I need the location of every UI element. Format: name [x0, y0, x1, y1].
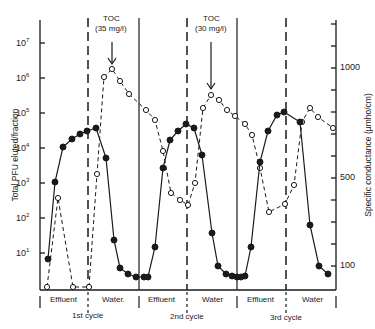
data-point-filled [93, 125, 99, 131]
toc-annotation-2-value: (30 mg/l) [195, 24, 227, 33]
data-point-filled [52, 179, 58, 185]
tick-label-100: 100 [340, 260, 355, 270]
cycle-label-3: 3rd cycle [270, 313, 302, 322]
phase-label-effluent-3: Effluent [247, 295, 274, 304]
data-point-open [249, 132, 254, 137]
data-point-filled [125, 271, 131, 277]
data-point-open [291, 182, 296, 187]
data-point-open [168, 190, 173, 195]
data-point-open [216, 97, 221, 102]
tick-label-1e6: 106 [16, 72, 29, 83]
data-point-filled [248, 244, 254, 250]
data-point-filled [191, 125, 197, 131]
tick-label-1e2: 102 [16, 212, 29, 223]
data-point-open [94, 171, 99, 176]
data-point-open [200, 105, 205, 110]
data-point-open [44, 284, 49, 289]
data-point-open [70, 284, 75, 289]
data-point-filled [325, 271, 331, 277]
cycle-label-1: 1st cycle [72, 311, 103, 320]
data-point-open [192, 180, 197, 185]
data-point-open [185, 202, 190, 207]
tick-label-1e4: 104 [16, 142, 29, 153]
data-point-open [152, 117, 157, 122]
data-point-filled [307, 222, 313, 228]
data-point-open [86, 284, 91, 289]
data-point-filled [111, 237, 117, 243]
data-point-filled [45, 256, 51, 262]
tick-label-1e7: 107 [16, 37, 29, 48]
data-point-open [242, 121, 247, 126]
tick-label-1e1: 101 [16, 247, 29, 258]
data-point-open [160, 148, 165, 153]
data-point-open [177, 197, 182, 202]
tick-label-500: 500 [340, 172, 355, 182]
data-point-open [307, 105, 312, 110]
chart [0, 0, 375, 329]
data-point-open [109, 66, 114, 71]
phase-separators [40, 18, 336, 313]
data-point-filled [274, 112, 280, 118]
data-point-filled [84, 128, 90, 134]
data-point-open [315, 114, 320, 119]
data-point-filled [69, 136, 75, 142]
phase-label-water-3: Water [302, 295, 323, 304]
data-point-filled [183, 121, 189, 127]
phase-label-effluent-2: Effluent [148, 295, 175, 304]
phase-label-water-1: Water. [102, 295, 125, 304]
toc-annotation-2-title: TOC [203, 14, 220, 23]
data-point-filled [223, 271, 229, 277]
tick-label-1e3: 103 [16, 177, 29, 188]
data-point-open [101, 74, 106, 79]
data-point-filled [199, 152, 205, 158]
data-point-filled [265, 128, 271, 134]
data-point-filled [60, 144, 66, 150]
series-line [47, 69, 333, 287]
data-point-open [208, 92, 213, 97]
tick-label-1e5: 105 [16, 107, 29, 118]
y-axis-label-right: Specific conductance (µmho/cm) [363, 85, 373, 225]
data-point-open [224, 107, 229, 112]
data-point-filled [215, 263, 221, 269]
cycle-label-2: 2nd cycle [170, 312, 204, 321]
tick-label-1000: 1000 [340, 62, 360, 72]
phase-label-water-2: Water [202, 295, 223, 304]
data-point-filled [281, 109, 287, 115]
data-point-filled [152, 244, 158, 250]
data-point-open [266, 209, 271, 214]
data-point-filled [209, 230, 215, 236]
data-point-filled [103, 155, 109, 161]
toc-annotation-1-title: TOC [103, 14, 120, 23]
data-point-filled [316, 263, 322, 269]
toc-arrows [108, 42, 215, 89]
data-point-open [55, 195, 60, 200]
data-point-filled [145, 274, 151, 280]
data-point-filled [175, 128, 181, 134]
data-point-open [143, 107, 148, 112]
data-point-filled [167, 137, 173, 143]
data-point-filled [77, 131, 83, 137]
phase-label-effluent-1: Effluent [50, 295, 77, 304]
data-point-filled [133, 274, 139, 280]
data-point-filled [257, 159, 263, 165]
data-point-open [330, 125, 335, 130]
data-point-open [126, 91, 131, 96]
data-point-filled [242, 273, 248, 279]
data-point-open [282, 201, 287, 206]
data-point-open [232, 113, 237, 118]
data-point-open [117, 78, 122, 83]
axes [40, 20, 336, 290]
data-point-filled [117, 265, 123, 271]
toc-annotation-1-value: (35 mg/l) [95, 24, 127, 33]
data-point-filled [160, 165, 166, 171]
data-point-filled [297, 119, 303, 125]
